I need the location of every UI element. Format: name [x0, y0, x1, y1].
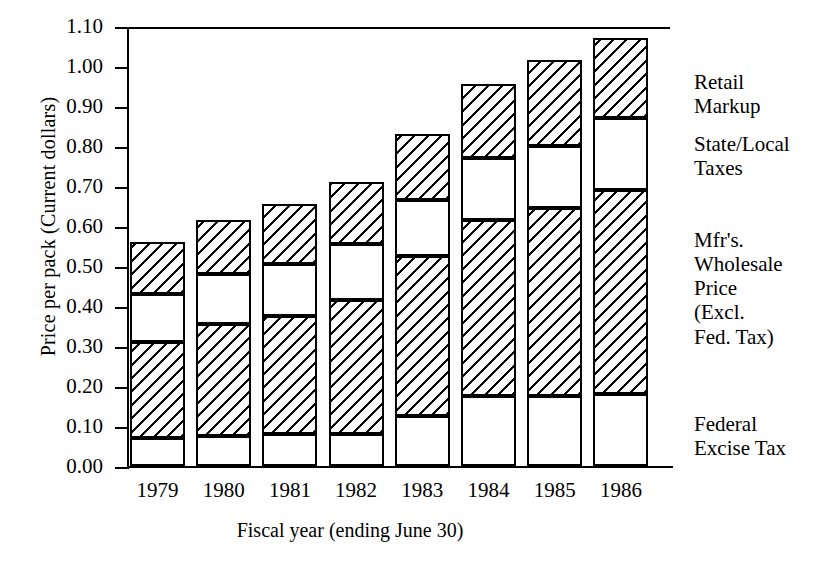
y-axis-tick — [115, 67, 129, 69]
bar-segment[interactable] — [262, 434, 317, 466]
bar-1980[interactable] — [196, 220, 251, 466]
x-axis-line — [127, 466, 673, 468]
y-axis-tick-label: 0.90 — [39, 96, 103, 117]
bar-segment[interactable] — [262, 204, 317, 264]
y-axis-tick-label: 0.50 — [39, 256, 103, 277]
y-axis-tick-label: 0.80 — [39, 136, 103, 157]
bar-1986[interactable] — [593, 38, 648, 466]
y-axis-tick — [115, 307, 129, 309]
legend-entry: Mfr's.WholesalePrice(Excl.Fed. Tax) — [694, 228, 783, 349]
bar-segment[interactable] — [461, 158, 516, 220]
bar-segment[interactable] — [395, 134, 450, 200]
bar-1984[interactable] — [461, 84, 516, 466]
x-axis-tick-label: 1986 — [581, 478, 661, 503]
bar-segment[interactable] — [527, 396, 582, 466]
bar-1982[interactable] — [329, 182, 384, 466]
legend-entry-line: State/Local — [694, 132, 790, 156]
bar-segment[interactable] — [593, 190, 648, 394]
y-axis-tick — [115, 387, 129, 389]
bar-segment[interactable] — [395, 256, 450, 416]
bar-segment[interactable] — [593, 394, 648, 466]
bar-segment[interactable] — [593, 118, 648, 190]
bar-1983[interactable] — [395, 134, 450, 466]
bar-segment[interactable] — [527, 208, 582, 396]
bar-segment[interactable] — [130, 294, 185, 342]
bar-segment[interactable] — [527, 60, 582, 146]
y-axis-tick — [115, 147, 129, 149]
legend-entry-line: (Excl. — [694, 300, 783, 324]
legend-entry-line: Excise Tax — [694, 436, 786, 460]
bar-1985[interactable] — [527, 60, 582, 466]
y-axis-tick-label: 0.30 — [39, 336, 103, 357]
bar-segment[interactable] — [262, 264, 317, 316]
bar-segment[interactable] — [196, 324, 251, 436]
bar-segment[interactable] — [329, 244, 384, 300]
legend-entry-line: Federal — [694, 412, 786, 436]
y-axis-tick — [115, 27, 129, 29]
bar-1979[interactable] — [130, 242, 185, 466]
bar-segment[interactable] — [461, 84, 516, 158]
bar-segment[interactable] — [329, 434, 384, 466]
bar-segment[interactable] — [395, 200, 450, 256]
y-axis-tick-label: 0.00 — [39, 456, 103, 477]
y-axis-tick-label: 0.20 — [39, 376, 103, 397]
y-axis-tick — [115, 347, 129, 349]
y-axis-tick-label: 1.00 — [39, 56, 103, 77]
x-axis-title: Fiscal year (ending June 30) — [0, 519, 700, 542]
y-axis-tick — [115, 427, 129, 429]
legend-entry: RetailMarkup — [694, 70, 761, 118]
y-axis-tick-label: 0.40 — [39, 296, 103, 317]
y-axis-tick — [115, 227, 129, 229]
bar-segment[interactable] — [593, 38, 648, 118]
legend-entry-line: Mfr's. — [694, 228, 783, 252]
legend-entry-line: Price — [694, 276, 783, 300]
y-axis-tick — [115, 187, 129, 189]
legend-entry: State/LocalTaxes — [694, 132, 790, 180]
y-axis-tick — [115, 267, 129, 269]
bar-segment[interactable] — [461, 396, 516, 466]
bar-segment[interactable] — [329, 182, 384, 244]
y-axis-tick-label: 1.10 — [39, 16, 103, 37]
bar-segment[interactable] — [130, 242, 185, 294]
legend-entry-line: Markup — [694, 94, 761, 118]
plot-top-rule — [129, 27, 670, 29]
y-axis-tick-label: 0.10 — [39, 416, 103, 437]
y-axis-tick — [115, 467, 129, 469]
bar-segment[interactable] — [196, 436, 251, 466]
y-axis-tick-label: 0.60 — [39, 216, 103, 237]
bar-segment[interactable] — [196, 220, 251, 274]
bar-segment[interactable] — [196, 274, 251, 324]
legend-entry-line: Wholesale — [694, 252, 783, 276]
plot-area — [129, 27, 670, 467]
bar-segment[interactable] — [262, 316, 317, 434]
bar-segment[interactable] — [130, 342, 185, 438]
legend-entry: FederalExcise Tax — [694, 412, 786, 460]
y-axis-line — [127, 27, 129, 468]
y-axis-tick — [115, 107, 129, 109]
bar-segment[interactable] — [461, 220, 516, 396]
bar-1981[interactable] — [262, 204, 317, 466]
bar-segment[interactable] — [130, 438, 185, 466]
legend-entry-line: Taxes — [694, 156, 790, 180]
legend-entry-line: Fed. Tax) — [694, 325, 783, 349]
bar-segment[interactable] — [527, 146, 582, 208]
y-axis-tick-label: 0.70 — [39, 176, 103, 197]
bar-segment[interactable] — [329, 300, 384, 434]
legend-entry-line: Retail — [694, 70, 761, 94]
bar-segment[interactable] — [395, 416, 450, 466]
chart-canvas: Price per pack (Current dollars) 1.101.0… — [0, 0, 821, 570]
